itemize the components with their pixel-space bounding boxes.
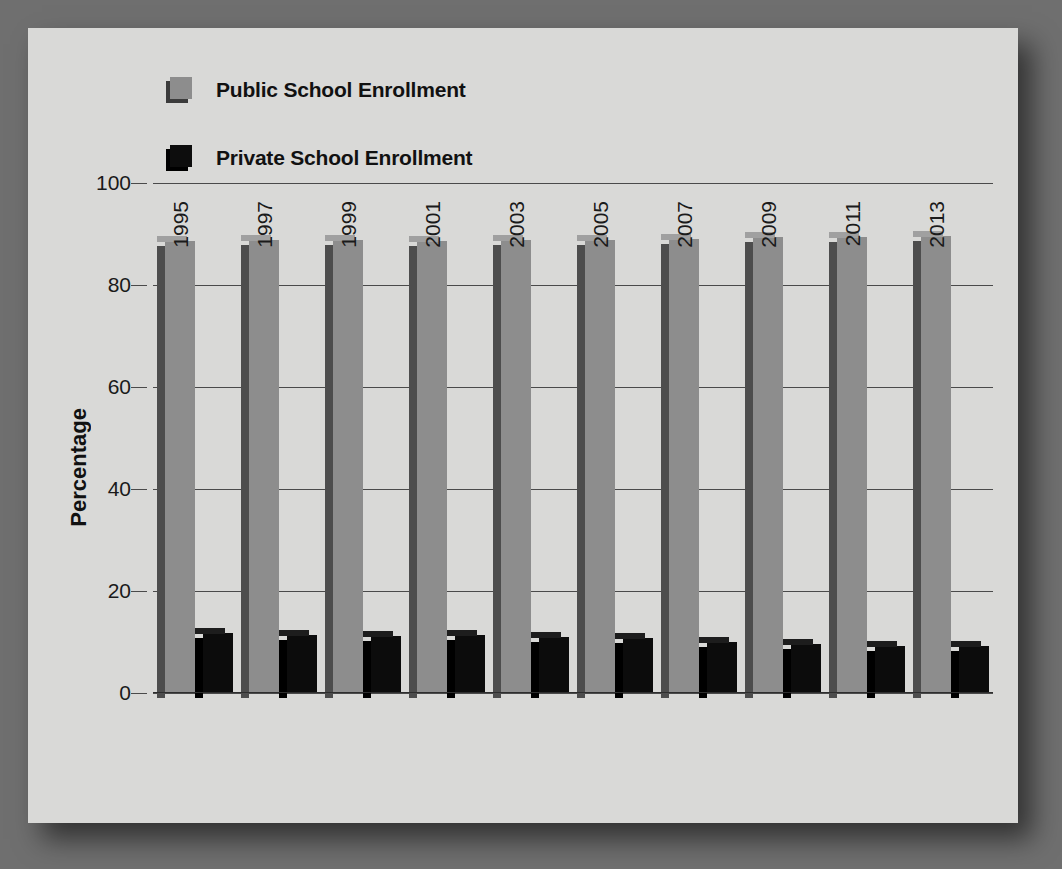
bar-public[interactable]: [669, 239, 699, 693]
x-tick-label: 2013: [925, 201, 949, 248]
bar-private[interactable]: [455, 635, 485, 693]
bar-public[interactable]: [417, 241, 447, 693]
bar-public[interactable]: [501, 240, 531, 693]
bar-group: [333, 183, 417, 693]
bar-public[interactable]: [333, 240, 363, 693]
x-tick-label: 2011: [841, 201, 865, 246]
x-tick-label: 2003: [505, 201, 529, 248]
x-tick-label: 1997: [253, 201, 277, 248]
bar-group: [165, 183, 249, 693]
bar-private[interactable]: [875, 646, 905, 693]
bar-private[interactable]: [791, 644, 821, 693]
axis-baseline: [153, 692, 993, 693]
x-tick-label: 2001: [421, 201, 445, 248]
y-tick-label: 0: [119, 681, 131, 705]
y-tick-label: 60: [108, 375, 131, 399]
private-swatch-icon: [166, 145, 192, 171]
bar-public[interactable]: [249, 240, 279, 693]
bar-group: [585, 183, 669, 693]
chart-panel: Public School Enrollment Private School …: [28, 28, 1018, 823]
y-tickmark: [131, 489, 147, 490]
y-axis-title: Percentage: [66, 408, 92, 527]
bar-group: [501, 183, 585, 693]
y-tickmark: [131, 183, 147, 184]
bar-private[interactable]: [371, 636, 401, 693]
y-tick-label: 80: [108, 273, 131, 297]
x-tick-label: 2007: [673, 201, 697, 248]
legend-item-public[interactable]: Public School Enrollment: [166, 68, 472, 112]
x-tick-label: 2009: [757, 201, 781, 248]
bar-public[interactable]: [753, 237, 783, 693]
bar-group: [417, 183, 501, 693]
y-tickmark: [131, 285, 147, 286]
bar-group: [837, 183, 921, 693]
bar-group: [669, 183, 753, 693]
bar-group: [921, 183, 1005, 693]
plot-area: 020406080100 199519971999200120032005200…: [153, 183, 993, 693]
bar-private[interactable]: [203, 633, 233, 693]
y-tickmark: [131, 591, 147, 592]
bar-group: [753, 183, 837, 693]
y-tick-label: 20: [108, 579, 131, 603]
x-tick-label: 2005: [589, 201, 613, 248]
legend-label-private: Private School Enrollment: [216, 146, 472, 170]
bar-private[interactable]: [623, 638, 653, 693]
legend-label-public: Public School Enrollment: [216, 78, 466, 102]
y-tick-label: 40: [108, 477, 131, 501]
bar-public[interactable]: [585, 240, 615, 693]
x-tick-label: 1999: [337, 201, 361, 248]
bar-private[interactable]: [287, 635, 317, 693]
bar-group: [249, 183, 333, 693]
y-tickmark: [131, 387, 147, 388]
bar-public[interactable]: [921, 236, 951, 693]
bar-public[interactable]: [837, 237, 867, 693]
y-tickmark: [131, 693, 147, 694]
bar-private[interactable]: [539, 637, 569, 693]
legend-item-private[interactable]: Private School Enrollment: [166, 136, 472, 180]
bar-private[interactable]: [707, 642, 737, 694]
bar-public[interactable]: [165, 241, 195, 693]
x-tick-label: 1995: [169, 201, 193, 248]
bar-private[interactable]: [959, 646, 989, 693]
public-swatch-icon: [166, 77, 192, 103]
y-tick-label: 100: [96, 171, 131, 195]
bar-groups: [153, 183, 993, 693]
